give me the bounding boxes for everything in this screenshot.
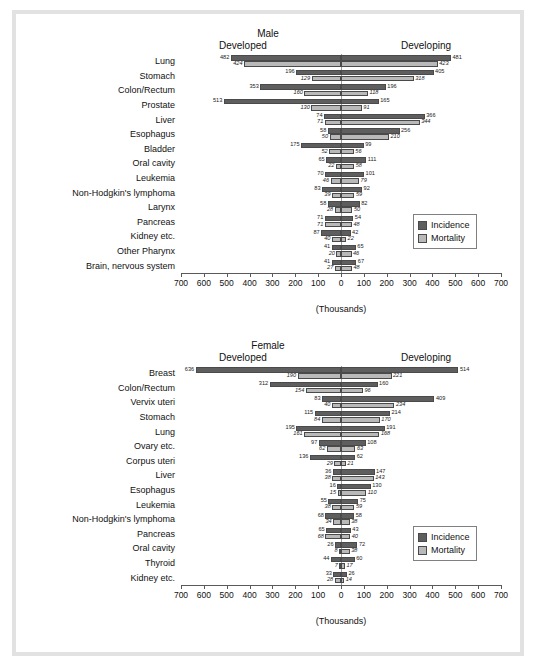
category-label: Lung <box>23 54 175 69</box>
bar-value-label: 40 <box>324 236 330 242</box>
bar-value-label: 110 <box>368 490 377 496</box>
bar-value-label: 59 <box>356 504 362 510</box>
bar-value-label: 21 <box>347 461 353 467</box>
category-label: Kidney etc. <box>23 229 175 244</box>
legend-label-mortality: Mortality <box>431 544 465 556</box>
bar-value-label: 15 <box>330 490 336 496</box>
bar-value-label: 62 <box>319 446 325 452</box>
bar-value-label: 83 <box>314 396 320 402</box>
bar-value-label: 38 <box>351 519 357 525</box>
axis-tick-label: 600 <box>197 278 211 288</box>
axis-tick <box>478 585 479 589</box>
bar-mortality-right <box>341 91 368 96</box>
legend-item-mortality: Mortality <box>418 232 470 244</box>
category-label: Vervix uteri <box>23 395 175 410</box>
bar-mortality-right <box>341 164 354 169</box>
axis-tick-label: 200 <box>288 278 302 288</box>
legend-swatch-incidence-icon <box>418 221 427 230</box>
legend-item-incidence: Incidence <box>418 531 470 543</box>
bar-value-label: 68 <box>318 513 324 519</box>
axis-tick <box>455 585 456 589</box>
bar-row: 31216015496 <box>181 381 501 396</box>
bar-value-label: 111 <box>368 157 377 163</box>
axis-tick-label: 100 <box>311 590 325 600</box>
axis-tick-label: 400 <box>242 278 256 288</box>
bar-value-label: 214 <box>391 410 400 416</box>
bar-mortality-left <box>325 120 341 125</box>
bar-mortality-left <box>331 178 342 183</box>
bar-row: 8340940234 <box>181 395 501 410</box>
bar-incidence-right <box>341 469 375 474</box>
bar-mortality-right <box>341 490 366 495</box>
bar-value-label: 29 <box>327 461 333 467</box>
axis-tick <box>227 273 228 277</box>
bar-row: 58822850 <box>181 200 501 215</box>
bar-mortality-right <box>341 417 380 422</box>
bar-row: 5825650210 <box>181 127 501 142</box>
category-label: Thyroid <box>23 556 175 571</box>
axis-tick <box>478 273 479 277</box>
bar-mortality-right <box>341 534 350 539</box>
bar-mortality-right <box>341 266 352 271</box>
bar-incidence-right <box>341 55 451 60</box>
bar-mortality-left <box>304 91 341 96</box>
category-label: Kidney etc. <box>23 570 175 585</box>
bar-row: 7436671344 <box>181 112 501 127</box>
bar-value-label: 160 <box>294 90 303 96</box>
axis-tick-label: 600 <box>471 590 485 600</box>
side-header-developing-male: Developing <box>401 40 451 51</box>
figure-page: Male Developed Developing LungStomachCol… <box>0 0 536 667</box>
bar-mortality-right <box>341 519 350 524</box>
bar-row: 196405129318 <box>181 69 501 84</box>
bar-value-label: 165 <box>380 98 389 104</box>
category-label: Colon/Rectum <box>23 83 175 98</box>
bar-value-label: 190 <box>287 373 296 379</box>
bar-mortality-right <box>341 61 438 66</box>
bar-value-label: 56 <box>355 149 361 155</box>
side-headers-male: Developed Developing <box>23 40 513 54</box>
axis-tick <box>455 273 456 277</box>
category-labels-male: LungStomachColon/RectumProstateLiverEsop… <box>23 54 175 273</box>
bar-mortality-left <box>311 105 341 110</box>
side-header-developing-female: Developing <box>401 352 451 363</box>
bar-incidence-right <box>341 99 379 104</box>
axis-tick <box>181 273 182 277</box>
bar-row: 68583438 <box>181 512 501 527</box>
bar-mortality-left <box>332 237 341 242</box>
axis-tick <box>295 273 296 277</box>
axis-tick-label: 400 <box>425 590 439 600</box>
bar-value-label: 34 <box>326 519 332 525</box>
axis-tick <box>387 273 388 277</box>
axis-tick <box>181 585 182 589</box>
bar-row: 701014679 <box>181 171 501 186</box>
bar-mortality-right <box>341 388 363 393</box>
x-axis-male: 7006005004003002001000100200300400500600… <box>181 273 501 303</box>
legend-swatch-incidence-icon <box>418 533 427 542</box>
bar-mortality-right <box>341 134 389 139</box>
bar-value-label: 44 <box>323 556 329 562</box>
bar-value-label: 168 <box>381 431 390 437</box>
bar-mortality-left <box>327 446 341 451</box>
bar-mortality-left <box>330 134 341 139</box>
bar-value-label: 513 <box>213 98 222 104</box>
category-label: Esophagus <box>23 127 175 142</box>
bar-mortality-right <box>341 251 352 256</box>
bar-value-label: 160 <box>379 381 388 387</box>
axis-tick <box>250 585 251 589</box>
axis-tick <box>410 585 411 589</box>
bar-value-label: 46 <box>323 178 329 184</box>
bar-value-label: 514 <box>460 367 469 373</box>
bar-mortality-left <box>332 403 341 408</box>
bar-incidence-left <box>270 382 341 387</box>
category-label: Non-Hodgkin's lymphoma <box>23 512 175 527</box>
bar-value-label: 196 <box>387 84 396 90</box>
bar-value-label: 636 <box>185 367 194 373</box>
side-headers-female: Developed Developing <box>23 352 513 366</box>
axis-tick-label: 400 <box>242 590 256 600</box>
chart-title-male: Male <box>23 28 513 40</box>
bar-row: 651112258 <box>181 156 501 171</box>
bar-row: 33262814 <box>181 570 501 585</box>
bar-mortality-right <box>341 563 345 568</box>
category-label: Pancreas <box>23 527 175 542</box>
bar-incidence-left <box>224 99 341 104</box>
